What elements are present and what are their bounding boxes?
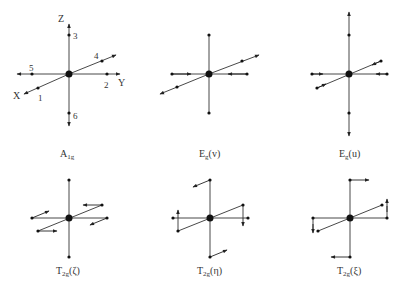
panel-t2g-eta	[171, 178, 249, 258]
octahedral-modes-diagram: Z Y X 1 2 3 4 5 6 A1g Eg(v)	[0, 0, 401, 291]
caption-t2g-eta: T2g(η)	[197, 265, 222, 278]
atom-number-2: 2	[104, 80, 109, 90]
panel-t2g-zeta	[30, 178, 108, 258]
axis-label-z: Z	[58, 13, 64, 24]
panel-eg-u	[310, 12, 388, 136]
central-atom	[66, 71, 73, 78]
atom-number-6: 6	[73, 111, 78, 121]
atom-number-4: 4	[94, 51, 99, 61]
panel-eg-v	[160, 33, 259, 114]
panel-t2g-xi	[311, 178, 388, 258]
atom-number-3: 3	[73, 31, 78, 41]
caption-eg-v: Eg(v)	[199, 148, 220, 161]
panel-a1g: Z Y X 1 2 3 4 5 6	[13, 13, 125, 126]
caption-t2g-zeta: T2g(ζ)	[56, 265, 80, 278]
axis-label-y: Y	[118, 77, 125, 88]
atom-number-5: 5	[29, 63, 34, 73]
atom-number-1: 1	[38, 93, 43, 103]
caption-a1g: A1g	[60, 148, 75, 161]
axis-label-x: X	[13, 90, 21, 101]
caption-eg-u: Eg(u)	[339, 148, 360, 161]
caption-t2g-xi: T2g(ξ)	[337, 265, 361, 278]
